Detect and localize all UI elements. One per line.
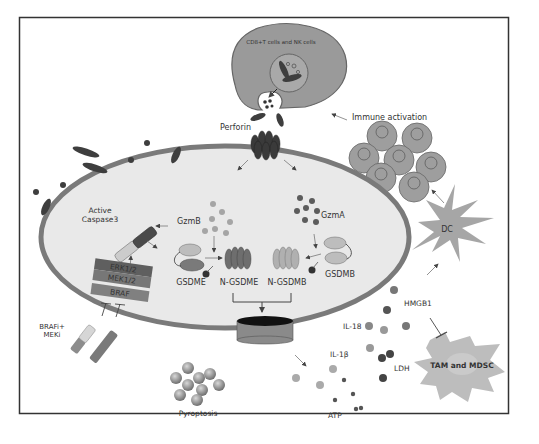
immune-activation-label: Immune activation [352, 113, 427, 122]
il1b-label: IL-1β [330, 350, 349, 359]
tam-mdsc-label: TAM and MDSC [430, 361, 494, 370]
n-gsdme-pore [225, 247, 251, 269]
brafi-label-line1: BRAFi+ [39, 323, 65, 331]
atp-label: ATP [328, 411, 342, 420]
gsdme-label: GSDME [176, 278, 205, 287]
dc-label: DC [441, 225, 453, 234]
gsdmb-label: GSDMB [325, 270, 355, 279]
pyroptosis-diagram: CD8+T cells and NK cells Immune activati… [0, 0, 539, 444]
active-caspase3-label-line1: Active [88, 206, 112, 215]
effector-cell-label: CD8+T cells and NK cells [246, 39, 315, 45]
n-gsdmb-pore [273, 247, 299, 269]
gzma-label: GzmA [321, 211, 345, 220]
n-gsdme-label: N-GSDME [220, 278, 259, 287]
brafi-label-line2: MEKi [44, 331, 61, 339]
tumor-cell [41, 146, 409, 328]
pyroptosis-label: Pyroptosis [179, 409, 218, 418]
hmgb1-label: HMGB1 [404, 299, 432, 308]
perforin-pore [251, 131, 280, 160]
ldh-label: LDH [394, 364, 410, 373]
gzmb-label: GzmB [177, 217, 201, 226]
n-gsdmb-label: N-GSDMB [268, 278, 307, 287]
il18-label: IL-18 [343, 322, 362, 331]
perforin-label: Perforin [220, 123, 251, 132]
effector-cell: CD8+T cells and NK cells [232, 24, 347, 110]
membrane-pore-channel [237, 316, 293, 344]
active-caspase3-label-line2: Caspase3 [82, 215, 119, 224]
